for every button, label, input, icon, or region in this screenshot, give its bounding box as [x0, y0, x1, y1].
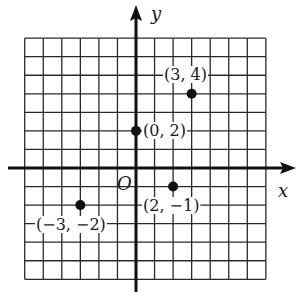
- point-label: (0, 2): [143, 121, 186, 140]
- point-label: (3, 4): [164, 65, 207, 84]
- x-axis-label: x: [278, 180, 288, 201]
- point-label: (2, −1): [143, 196, 199, 215]
- coordinate-plane: x y O (3, 4)(0, 2)(2, −1)(−3, −2): [0, 0, 299, 299]
- data-point-marker: [187, 89, 197, 99]
- point-label: (−3, −2): [36, 215, 106, 234]
- data-point-marker: [168, 182, 178, 192]
- data-point-marker: [75, 200, 85, 210]
- y-axis-label: y: [150, 3, 162, 24]
- data-point-marker: [131, 126, 141, 136]
- origin-label: O: [117, 173, 132, 194]
